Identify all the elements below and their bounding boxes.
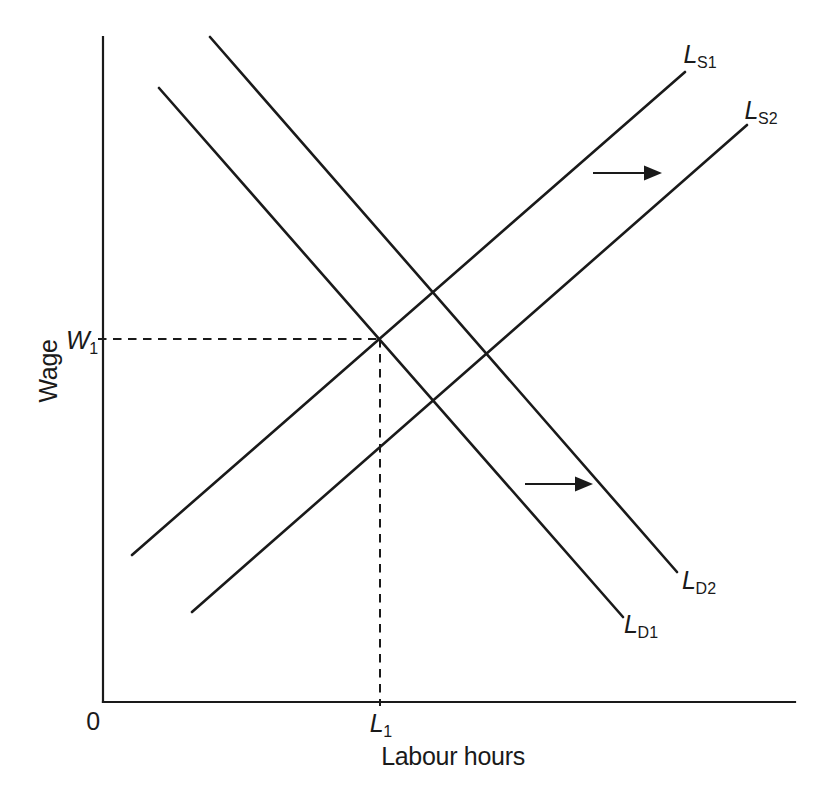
ld1-symbol: L	[624, 610, 638, 638]
ld2-symbol: L	[682, 566, 696, 594]
supply-shift-arrow-head	[644, 166, 662, 181]
x-axis-label: Labour hours	[381, 744, 525, 769]
supply-curve-1-label: LS1	[683, 42, 716, 67]
wage-w1-tick-label: W1	[66, 328, 98, 353]
demand-shift-arrow-head	[575, 477, 593, 492]
labour-l1-tick-label: L1	[370, 711, 393, 736]
w1-subscript: 1	[89, 340, 98, 357]
l1-subscript: 1	[383, 723, 392, 740]
w1-symbol: W	[66, 326, 89, 354]
labour-supply-2	[192, 125, 747, 612]
ld1-subscript: D1	[638, 624, 658, 641]
labour-supply-1	[132, 72, 685, 555]
labour-market-diagram: Wage Labour hours 0 W1 L1 LS1 LS2 LD1 LD…	[0, 0, 826, 794]
ls1-subscript: S1	[697, 54, 717, 71]
y-axis-label: Wage	[36, 339, 61, 402]
labour-demand-2	[210, 37, 677, 572]
diagram-svg	[0, 0, 826, 794]
ls2-subscript: S2	[758, 110, 778, 127]
demand-curve-1-label: LD1	[624, 612, 658, 637]
origin-label: 0	[86, 709, 100, 734]
l1-symbol: L	[370, 709, 384, 737]
ls2-symbol: L	[744, 96, 758, 124]
demand-curve-2-label: LD2	[682, 568, 716, 593]
ld2-subscript: D2	[696, 580, 716, 597]
ls1-symbol: L	[683, 40, 697, 68]
supply-curve-2-label: LS2	[744, 98, 777, 123]
labour-demand-1	[159, 88, 623, 617]
